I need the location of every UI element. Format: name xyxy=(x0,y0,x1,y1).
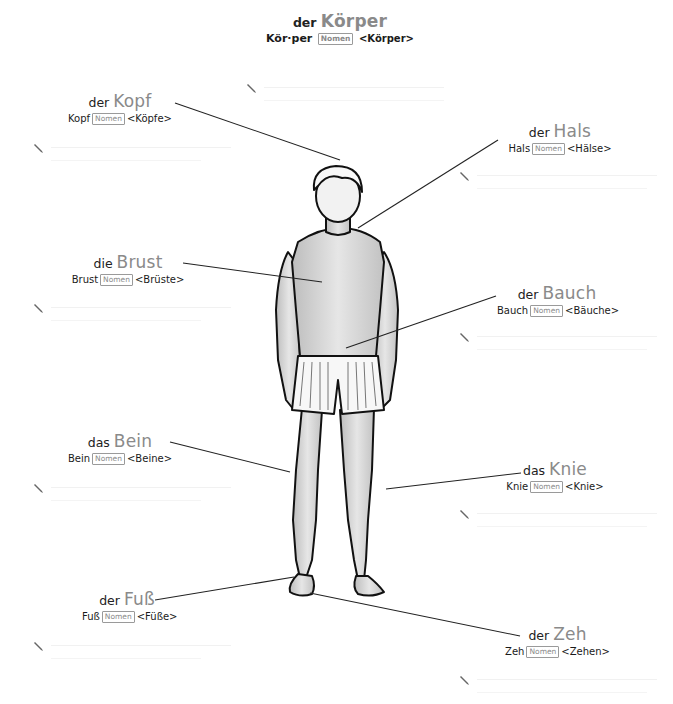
noun-bauch: Bauch xyxy=(542,283,596,303)
word-class-badge: Nomen xyxy=(100,274,133,286)
pencil-icon xyxy=(459,170,471,182)
pencil-icon xyxy=(459,508,471,520)
noun-knie: Knie xyxy=(549,459,587,479)
note-field-brust[interactable] xyxy=(33,302,233,324)
label-bein: das Bein BeinNomen<Beine> xyxy=(65,432,175,466)
note-field-hals[interactable] xyxy=(459,170,659,192)
leader-knie xyxy=(386,473,521,489)
label-fuss: der Fuß FußNomen<Füße> xyxy=(82,590,172,624)
note-field-knie[interactable] xyxy=(459,508,659,530)
noun-fuss: Fuß xyxy=(124,589,155,609)
pencil-icon xyxy=(33,482,45,494)
title-article: der xyxy=(293,15,317,30)
label-kopf: der Kopf KopfNomen<Köpfe> xyxy=(60,92,180,126)
note-field-title[interactable] xyxy=(246,82,446,104)
label-brust: die Brust BrustNomen<Brüste> xyxy=(68,253,188,287)
noun-hals: Hals xyxy=(554,121,592,141)
leader-bein xyxy=(170,442,290,472)
note-field-kopf[interactable] xyxy=(33,142,233,164)
pencil-icon xyxy=(246,82,258,94)
label-zeh: der Zeh ZehNomen<Zehen> xyxy=(505,625,610,659)
noun-bein: Bein xyxy=(114,431,152,451)
word-class-badge: Nomen xyxy=(92,453,125,465)
note-field-fuss[interactable] xyxy=(33,640,233,662)
note-field-bauch[interactable] xyxy=(459,331,659,353)
title-plural: <Körper> xyxy=(359,33,414,44)
label-bauch: der Bauch BauchNomen<Bäuche> xyxy=(497,284,617,318)
word-class-badge: Nomen xyxy=(530,481,563,493)
title-noun: Körper xyxy=(321,11,387,31)
word-class-badge: Nomen xyxy=(530,305,563,317)
title-label: der Körper Kör·per Nomen <Körper> xyxy=(240,12,440,46)
pencil-icon xyxy=(33,640,45,652)
noun-kopf: Kopf xyxy=(113,91,151,111)
noun-zeh: Zeh xyxy=(553,624,586,644)
word-class-badge: Nomen xyxy=(318,33,354,45)
word-class-badge: Nomen xyxy=(532,143,565,155)
leader-zeh xyxy=(310,593,520,636)
word-class-badge: Nomen xyxy=(92,113,125,125)
pencil-icon xyxy=(33,302,45,314)
leader-fuss xyxy=(155,577,294,600)
pencil-icon xyxy=(33,142,45,154)
label-knie: das Knie KnieNomen<Knie> xyxy=(505,460,605,494)
note-field-zeh[interactable] xyxy=(459,674,659,696)
word-class-badge: Nomen xyxy=(102,611,135,623)
pencil-icon xyxy=(459,331,471,343)
label-hals: der Hals HalsNomen<Hälse> xyxy=(505,122,615,156)
pencil-icon xyxy=(459,674,471,686)
note-field-bein[interactable] xyxy=(33,482,233,504)
noun-brust: Brust xyxy=(117,252,163,272)
human-figure xyxy=(276,166,398,596)
word-class-badge: Nomen xyxy=(526,646,559,658)
title-hyphenation: Kör·per xyxy=(266,32,312,45)
